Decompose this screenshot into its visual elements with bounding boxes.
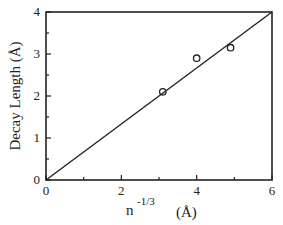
- chart: 024601234 Decay Length (Å) n -1/3 (Å): [0, 0, 283, 225]
- x-axis-label-base: n: [126, 202, 134, 218]
- y-tick-label: 4: [34, 4, 41, 19]
- data-point: [193, 55, 199, 61]
- y-axis-label: Decay Length (Å): [7, 41, 24, 150]
- x-tick-label: 6: [269, 183, 276, 198]
- y-tick-label: 1: [34, 130, 41, 145]
- y-tick-label: 2: [34, 88, 41, 103]
- tick-labels: 024601234: [34, 4, 276, 198]
- x-tick-label: 0: [43, 183, 50, 198]
- x-axis-label-unit: (Å): [176, 204, 197, 221]
- data-point: [227, 45, 233, 51]
- plot-series: [46, 12, 272, 180]
- y-tick-label: 0: [34, 172, 41, 187]
- x-axis-label-exponent: -1/3: [137, 195, 155, 207]
- x-tick-label: 2: [118, 183, 125, 198]
- fit-line: [46, 12, 272, 180]
- y-tick-label: 3: [34, 46, 41, 61]
- x-tick-label: 4: [193, 183, 200, 198]
